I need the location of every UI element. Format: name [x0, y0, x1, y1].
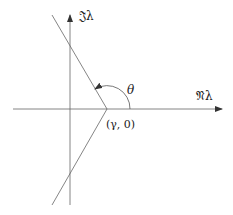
upper-ray [52, 15, 107, 109]
vertex-label: (γ, 0) [106, 118, 135, 131]
real-axis-label: 𝔑λ [196, 89, 213, 103]
imag-axis-label: 𝔍λ [78, 9, 94, 23]
lower-ray [52, 109, 107, 205]
sector-diagram: 𝔍λ 𝔑λ θ (γ, 0) [0, 0, 233, 215]
angle-label: θ [127, 83, 135, 97]
